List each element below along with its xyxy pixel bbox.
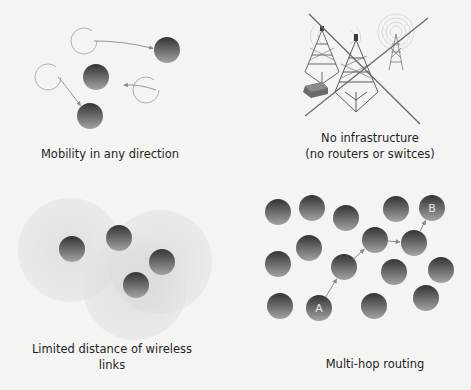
wireless-node [149,249,175,275]
range-caption: Limited distance of wireless links [22,341,202,373]
movement-arrow [94,41,153,48]
movement-arrow [124,85,156,90]
previous-position-ghost [71,28,97,54]
infrastructure-caption-line2: (no routers or switces) [295,146,445,162]
source-node-label: A [315,302,323,315]
hop-arrow [388,241,400,242]
network-node [296,235,322,261]
infrastructure-panel [303,14,428,124]
mobility-caption: Mobility in any direction [20,146,200,162]
previous-position-ghost [35,64,61,90]
wireless-node [59,236,85,262]
cell-tower-icon [305,26,339,84]
network-node [331,254,357,280]
range-panel [18,198,212,340]
network-node [401,230,427,256]
radio-wave-icon [311,14,414,50]
router-icon [303,82,328,98]
diagram-canvas: AB [0,0,471,390]
network-node [299,195,325,221]
infrastructure-caption-line1: No infrastructure [295,130,445,146]
network-node [413,285,439,311]
network-node [381,259,407,285]
network-node [265,251,291,277]
network-node [267,293,293,319]
hop-arrow [420,220,426,231]
mobile-node [83,64,109,90]
network-node [362,227,388,253]
range-caption-line2: links [22,357,202,373]
network-node [428,257,454,283]
movement-arrow [58,77,81,106]
routing-panel: AB [265,195,454,321]
mobile-node [154,37,180,63]
mobile-node [77,103,103,129]
range-caption-line1: Limited distance of wireless [22,341,202,357]
network-node [265,199,291,225]
wireless-node [123,272,149,298]
wireless-node [106,225,132,251]
mobility-panel [35,28,180,129]
destination-node-label: B [428,202,436,215]
hop-arrow [326,279,337,297]
network-node [333,205,359,231]
hop-arrow [354,249,365,258]
routing-caption: Multi-hop routing [295,356,455,372]
network-node [361,293,387,319]
network-node [383,196,409,222]
infrastructure-caption: No infrastructure (no routers or switces… [295,130,445,162]
